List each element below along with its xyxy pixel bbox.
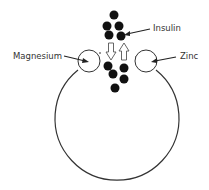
magnesium-vesicle: [78, 50, 100, 72]
insulin-dot: [105, 31, 114, 40]
insulin-dot: [120, 75, 129, 84]
insulin-dot: [117, 32, 126, 41]
insulin-dot: [109, 70, 118, 79]
insulin-label: Insulin: [153, 24, 181, 33]
insulin-dot: [120, 64, 129, 73]
insulin-secretion-diagram: Insulin Magnesium Zinc: [0, 0, 209, 190]
zinc-label: Zinc: [180, 52, 198, 61]
insulin-dot: [104, 62, 113, 71]
down-arrow-icon: [106, 43, 116, 60]
insulin-dot: [103, 22, 112, 31]
insulin-dot: [115, 22, 124, 31]
up-arrow-icon: [119, 43, 129, 60]
insulin-dot: [111, 84, 120, 93]
insulin-dot: [110, 11, 119, 20]
magnesium-label: Magnesium: [13, 52, 62, 61]
pointer-insulin: [124, 29, 150, 36]
